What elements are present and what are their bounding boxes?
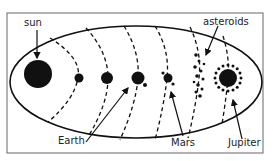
jupiter-body: [219, 69, 237, 87]
asteroids-arrow: [206, 26, 218, 55]
earth-body: [132, 72, 145, 85]
mars-moon-1: [161, 71, 164, 74]
jupiter-moon: [227, 90, 230, 93]
jupiter-moon: [214, 77, 217, 80]
jupiter-arrow: [233, 100, 242, 139]
jupiter-moon: [217, 67, 220, 70]
mars-arrow: [171, 92, 183, 136]
label-earth: Earth: [58, 135, 85, 146]
jupiter-moon: [215, 82, 218, 85]
earth-moon: [143, 83, 147, 87]
jupiter-moon: [239, 82, 242, 85]
jupiter-moon: [227, 64, 230, 67]
jupiter-moon: [215, 72, 218, 75]
jupiter-moon: [239, 72, 242, 75]
venus-body: [101, 72, 113, 84]
mars-body: [164, 74, 173, 83]
jupiter-moon: [240, 77, 243, 80]
jupiter-moon: [232, 89, 235, 92]
jupiter-moon: [217, 86, 220, 89]
jupiter-moon: [236, 86, 239, 89]
label-asteroids: asteroids: [203, 16, 249, 27]
label-sun: sun: [24, 17, 42, 28]
jupiter-moon: [232, 65, 235, 68]
sun-body: [24, 60, 52, 88]
jupiter-moon: [236, 67, 239, 70]
label-jupiter: Jupiter: [227, 137, 261, 148]
label-mars: Mars: [171, 137, 195, 148]
orbit-mars: [155, 26, 168, 140]
jupiter-moon: [222, 65, 225, 68]
solar-system-diagram: sun asteroids Earth Mars Jupiter: [0, 0, 273, 161]
mars-moon-2: [171, 82, 174, 85]
orbit-mercury: [48, 38, 78, 122]
earth-arrow: [86, 88, 128, 142]
jupiter-moon: [222, 89, 225, 92]
mercury-body: [75, 74, 84, 83]
